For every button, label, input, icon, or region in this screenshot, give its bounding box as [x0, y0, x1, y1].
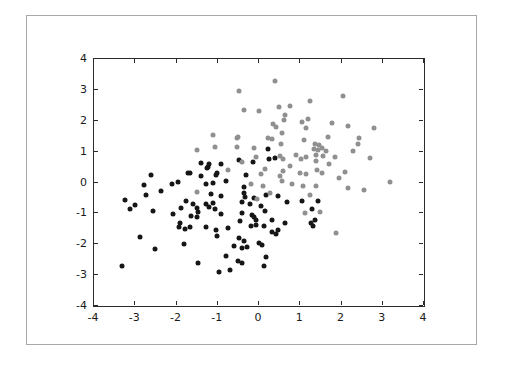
- data-point-cluster-gray: [320, 170, 325, 175]
- data-point-cluster-dark: [228, 268, 233, 273]
- data-point-cluster-gray: [307, 99, 312, 104]
- data-point-cluster-dark: [209, 192, 214, 197]
- data-point-cluster-dark: [184, 198, 189, 203]
- data-point-cluster-dark: [171, 211, 176, 216]
- data-point-cluster-dark: [240, 261, 245, 266]
- data-point-cluster-dark: [284, 200, 289, 205]
- data-point-cluster-dark: [269, 217, 274, 222]
- data-point-cluster-dark: [199, 174, 204, 179]
- data-point-cluster-gray: [307, 193, 312, 198]
- data-point-cluster-dark: [211, 180, 216, 185]
- y-tick: [94, 151, 98, 152]
- y-tick-label: -1: [69, 207, 87, 218]
- data-point-cluster-gray: [304, 126, 309, 131]
- x-tick: [134, 301, 135, 305]
- data-point-cluster-dark: [259, 203, 264, 208]
- y-tick: [419, 58, 423, 59]
- data-point-cluster-dark: [203, 181, 208, 186]
- data-point-cluster-gray: [287, 103, 292, 108]
- y-tick-label: -3: [69, 269, 87, 280]
- data-point-cluster-dark: [213, 227, 218, 232]
- x-tick: [423, 59, 424, 63]
- y-tick-label: 4: [69, 53, 87, 64]
- data-point-cluster-gray: [346, 123, 351, 128]
- x-tick: [382, 301, 383, 305]
- data-point-cluster-dark: [127, 207, 132, 212]
- data-point-cluster-dark: [196, 261, 201, 266]
- data-point-cluster-dark: [225, 225, 230, 230]
- data-point-cluster-dark: [215, 170, 220, 175]
- x-tick: [341, 59, 342, 63]
- y-tick: [419, 305, 423, 306]
- x-tick-label: 3: [378, 312, 385, 323]
- data-point-cluster-gray: [324, 148, 329, 153]
- data-point-cluster-gray: [301, 137, 306, 142]
- data-point-cluster-gray: [362, 188, 367, 193]
- data-point-cluster-dark: [241, 239, 246, 244]
- data-point-cluster-dark: [152, 247, 157, 252]
- data-point-cluster-gray: [305, 117, 310, 122]
- x-tick: [217, 301, 218, 305]
- data-point-cluster-gray: [225, 167, 230, 172]
- x-tick: [341, 301, 342, 305]
- data-point-cluster-dark: [219, 194, 224, 199]
- data-point-cluster-gray: [287, 164, 292, 169]
- data-point-cluster-dark: [196, 209, 201, 214]
- data-point-cluster-dark: [253, 222, 258, 227]
- x-tick: [382, 59, 383, 63]
- data-point-cluster-gray: [317, 209, 322, 214]
- y-tick: [94, 58, 98, 59]
- data-point-cluster-gray: [249, 182, 254, 187]
- data-point-cluster-dark: [189, 214, 194, 219]
- data-point-cluster-gray: [273, 125, 278, 130]
- data-point-cluster-dark: [244, 173, 249, 178]
- data-point-cluster-gray: [262, 167, 267, 172]
- data-point-cluster-gray: [340, 93, 345, 98]
- data-point-cluster-dark: [211, 200, 216, 205]
- data-point-cluster-gray: [260, 184, 265, 189]
- y-tick: [94, 243, 98, 244]
- data-point-cluster-gray: [268, 190, 273, 195]
- data-point-cluster-dark: [144, 193, 149, 198]
- data-point-cluster-dark: [239, 211, 244, 216]
- y-tick-label: -2: [69, 238, 87, 249]
- data-point-cluster-dark: [185, 170, 190, 175]
- data-point-cluster-gray: [367, 155, 372, 160]
- data-point-cluster-gray: [387, 179, 392, 184]
- data-point-cluster-dark: [261, 263, 266, 268]
- data-point-cluster-gray: [279, 131, 284, 136]
- data-point-cluster-gray: [350, 148, 355, 153]
- data-point-cluster-dark: [206, 205, 211, 210]
- data-point-cluster-gray: [240, 160, 245, 165]
- data-point-cluster-dark: [216, 270, 221, 275]
- data-point-cluster-dark: [219, 211, 224, 216]
- data-point-cluster-dark: [214, 234, 219, 239]
- data-point-cluster-dark: [177, 224, 182, 229]
- data-point-cluster-gray: [234, 135, 239, 140]
- data-point-cluster-dark: [275, 194, 280, 199]
- data-point-cluster-dark: [264, 254, 269, 259]
- data-point-cluster-gray: [252, 145, 257, 150]
- data-point-cluster-dark: [150, 209, 155, 214]
- data-point-cluster-gray: [278, 141, 283, 146]
- data-point-cluster-gray: [300, 184, 305, 189]
- data-point-cluster-gray: [242, 107, 247, 112]
- data-point-cluster-gray: [313, 159, 318, 164]
- data-point-cluster-dark: [282, 220, 287, 225]
- data-point-cluster-dark: [237, 219, 242, 224]
- y-tick: [419, 212, 423, 213]
- data-point-cluster-gray: [326, 161, 331, 166]
- y-tick-label: 0: [69, 176, 87, 187]
- data-point-cluster-dark: [204, 224, 209, 229]
- x-tick: [176, 59, 177, 63]
- data-point-cluster-gray: [321, 153, 326, 158]
- data-point-cluster-dark: [219, 161, 224, 166]
- data-point-cluster-gray: [281, 157, 286, 162]
- data-point-cluster-dark: [272, 155, 277, 160]
- y-tick: [419, 151, 423, 152]
- data-point-cluster-dark: [123, 198, 128, 203]
- y-tick: [419, 120, 423, 121]
- data-point-cluster-dark: [240, 199, 245, 204]
- data-point-cluster-gray: [282, 117, 287, 122]
- data-point-cluster-gray: [237, 89, 242, 94]
